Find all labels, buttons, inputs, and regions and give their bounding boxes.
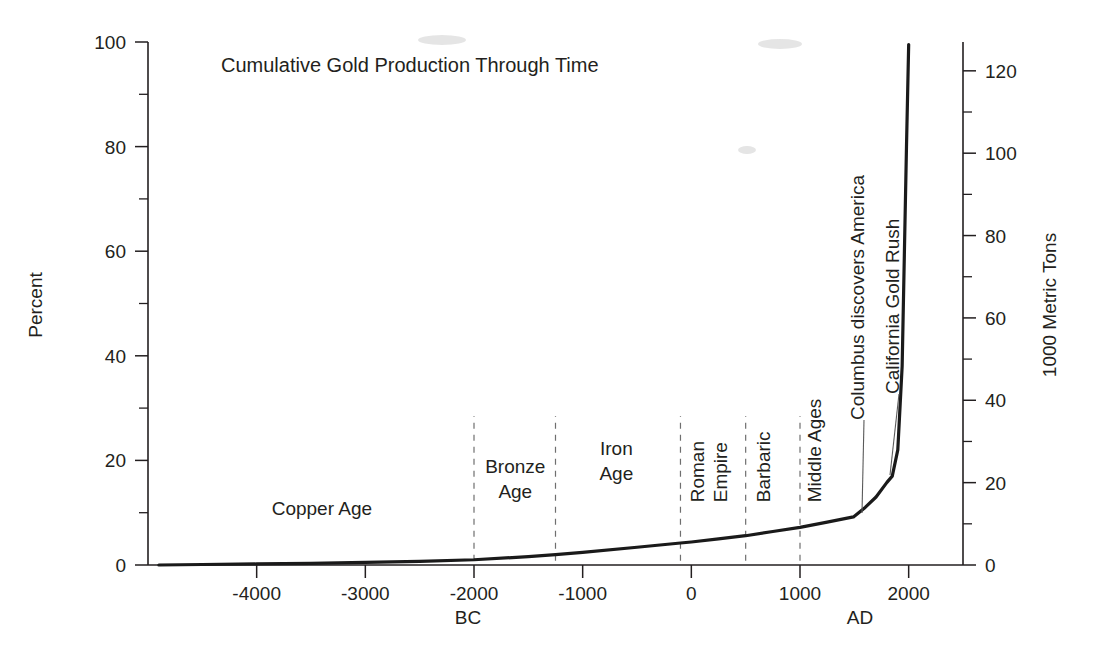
y-tick-label-right: 20 (985, 473, 1006, 494)
x-tick-label: -4000 (232, 583, 281, 604)
scan-artifacts (418, 35, 802, 154)
x-tick-label: 2000 (888, 583, 930, 604)
annotation-label: California Gold Rush (882, 219, 903, 394)
era-label: Bronze (485, 456, 545, 477)
annotation-leader-line (862, 420, 864, 513)
data-series-line (159, 45, 909, 565)
era-label: Age (498, 481, 532, 502)
era-label: Iron (600, 438, 633, 459)
y-tick-label-left: 40 (105, 346, 126, 367)
era-label: Middle Ages (804, 399, 825, 503)
y-tick-label-right: 80 (985, 226, 1006, 247)
y-tick-label-right: 60 (985, 308, 1006, 329)
y-tick-label-right: 0 (985, 555, 996, 576)
x-tick-label: 0 (686, 583, 697, 604)
x-tick-label: -3000 (341, 583, 390, 604)
y-axis-right-label: 1000 Metric Tons (1039, 233, 1060, 377)
era-label: Empire (710, 442, 731, 502)
y-tick-label-left: 80 (105, 137, 126, 158)
era-labels: Copper AgeBronzeAgeIronAgeRomanEmpireBar… (272, 399, 825, 520)
x-axis-label-ad: AD (847, 607, 873, 628)
era-label: Age (599, 463, 633, 484)
axes: 020406080100020406080100120-4000-3000-20… (94, 32, 1016, 604)
x-axis-label-bc: BC (455, 607, 481, 628)
era-label: Copper Age (272, 498, 372, 519)
chart-figure: 020406080100020406080100120-4000-3000-20… (0, 0, 1104, 655)
x-tick-label: 1000 (779, 583, 821, 604)
y-tick-label-left: 0 (115, 555, 126, 576)
era-label: Barbaric (753, 431, 774, 502)
era-label: Roman (687, 441, 708, 502)
chart-title: Cumulative Gold Production Through Time (221, 54, 599, 76)
x-tick-label: -1000 (558, 583, 607, 604)
y-tick-label-right: 40 (985, 390, 1006, 411)
cumulative-gold-production-chart: 020406080100020406080100120-4000-3000-20… (0, 0, 1104, 655)
x-tick-label: -2000 (450, 583, 499, 604)
gold-production-curve (159, 45, 909, 565)
y-tick-label-left: 60 (105, 241, 126, 262)
y-tick-label-left: 20 (105, 450, 126, 471)
y-tick-label-right: 120 (985, 61, 1017, 82)
y-tick-label-left: 100 (94, 32, 126, 53)
annotation-label: Columbus discovers America (847, 175, 868, 420)
y-axis-label: Percent (25, 272, 46, 338)
y-tick-label-right: 100 (985, 143, 1017, 164)
